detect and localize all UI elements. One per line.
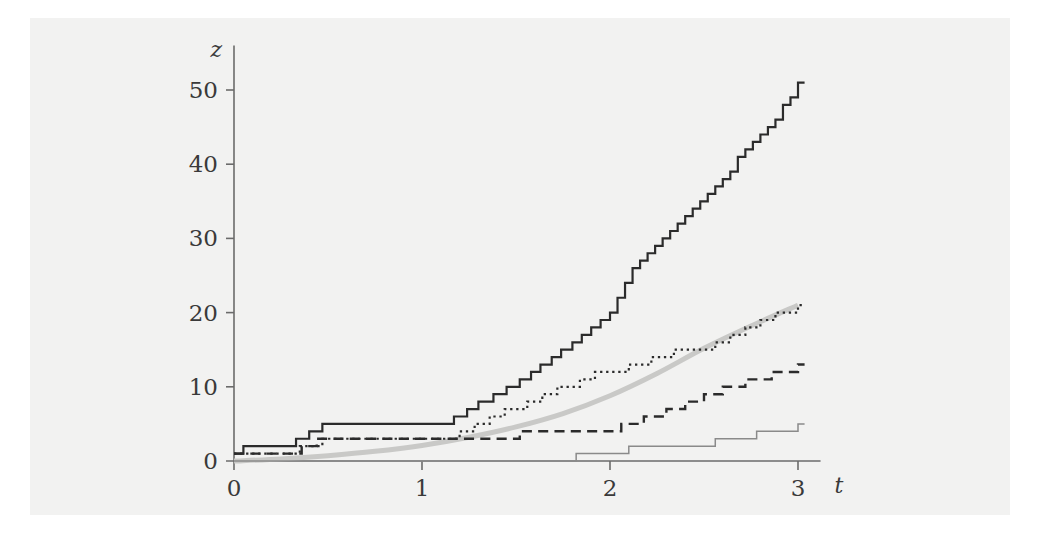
y-tick-label: 30 [189, 225, 218, 251]
axis-labels-group: 010203040500123zt [189, 37, 844, 501]
x-axis-label: t [835, 473, 844, 498]
y-axis-label: z [209, 37, 222, 62]
chart-svg: 010203040500123zt [0, 0, 1046, 535]
y-tick-label: 40 [189, 151, 218, 177]
x-tick-label: 3 [791, 475, 806, 501]
x-tick-label: 1 [415, 475, 430, 501]
series-group [234, 83, 805, 461]
y-tick-label: 20 [189, 300, 218, 326]
y-tick-label: 10 [189, 374, 218, 400]
series-sample-path-dashed [234, 365, 805, 454]
figure-canvas: 010203040500123zt [0, 0, 1046, 535]
x-tick-label: 0 [227, 475, 242, 501]
series-sample-path-solid [234, 83, 805, 454]
axes-group [226, 45, 821, 470]
y-tick-label: 0 [203, 448, 218, 474]
x-tick-label: 2 [603, 475, 618, 501]
y-tick-label: 50 [189, 77, 218, 103]
